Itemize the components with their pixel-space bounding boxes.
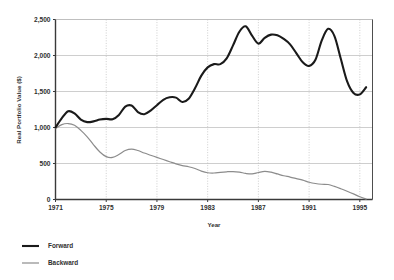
x-tick-label: 1983 <box>200 204 215 211</box>
x-tick-label: 1971 <box>48 204 63 211</box>
line-chart: 05001,0001,5002,0002,500 197119751979198… <box>0 0 394 280</box>
x-tick-label: 1987 <box>251 204 266 211</box>
x-tick-label: 1975 <box>99 204 114 211</box>
plot-background <box>0 0 394 280</box>
legend-label-forward: Forward <box>48 242 73 249</box>
y-tick-label: 500 <box>39 160 50 167</box>
y-axis-title: Real Portfolio Value ($) <box>15 76 22 143</box>
x-tick-label: 1979 <box>150 204 165 211</box>
x-axis-title: Year <box>207 221 221 228</box>
chart-figure: 05001,0001,5002,0002,500 197119751979198… <box>0 0 394 280</box>
y-tick-label: 1,000 <box>34 124 51 132</box>
legend-label-backward: Backward <box>48 259 78 266</box>
y-tick-label: 2,500 <box>34 16 51 24</box>
y-tick-label: 2,000 <box>34 52 51 60</box>
x-tick-label: 1995 <box>352 204 367 211</box>
y-tick-label: 1,500 <box>34 88 51 96</box>
x-tick-label: 1991 <box>302 204 317 211</box>
y-tick-label: 0 <box>47 196 51 203</box>
